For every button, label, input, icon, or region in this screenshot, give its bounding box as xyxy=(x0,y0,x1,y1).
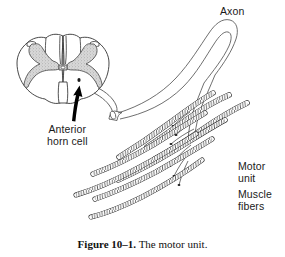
spinal-cord-cross-section xyxy=(17,34,122,121)
central-canal xyxy=(61,66,65,69)
ventral-median-fissure xyxy=(58,82,68,103)
motor-unit-diagram xyxy=(0,0,285,257)
label-axon: Axon xyxy=(220,6,244,18)
figure-caption-text: The motor unit. xyxy=(139,238,208,250)
figure-caption-number: Figure 10–1. xyxy=(78,238,136,250)
muscle-fiber-bundle xyxy=(76,93,247,217)
figure-caption: Figure 10–1. The motor unit. xyxy=(0,238,285,250)
label-motor-unit: Motor unit xyxy=(238,160,265,184)
label-anterior-horn-cell-line2: horn cell xyxy=(47,135,88,147)
figure-container: Axon Anterior horn cell Motor unit Muscl… xyxy=(0,0,285,257)
label-motor-unit-line2: unit xyxy=(238,172,265,184)
label-muscle-fibers-line1: Muscle xyxy=(238,188,272,200)
anterior-horn-cell-body xyxy=(77,78,80,82)
label-motor-unit-line1: Motor xyxy=(238,160,265,172)
label-muscle-fibers-line2: fibers xyxy=(238,200,272,212)
muscle-fiber xyxy=(76,134,196,195)
label-anterior-horn-cell: Anterior horn cell xyxy=(47,123,88,147)
label-muscle-fibers: Muscle fibers xyxy=(238,188,272,212)
label-anterior-horn-cell-line1: Anterior xyxy=(47,123,88,135)
